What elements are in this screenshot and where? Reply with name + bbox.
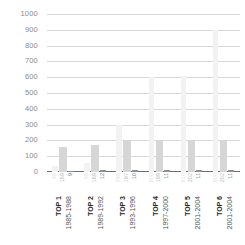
value-label: 295: [116, 173, 122, 182]
value-label: 55: [84, 173, 90, 179]
value-label: 159: [60, 173, 66, 182]
bar-series-1: [116, 125, 122, 172]
value-label: 610: [181, 173, 187, 182]
y-axis-tick-label: 200: [0, 137, 38, 145]
bar-series-2: [220, 140, 228, 172]
bar-group: [111, 14, 143, 172]
bar-group: [79, 14, 111, 172]
category-label-group: TOP 31993-1996: [111, 196, 143, 245]
bar-series-2: [59, 147, 67, 172]
value-labels-row: 3615995516912295197106001991161020211900…: [47, 173, 240, 195]
y-axis-tick-label: 500: [0, 89, 38, 97]
category-label: TOP 3: [119, 196, 126, 216]
bar-series-2: [91, 145, 99, 172]
bar-series-3: [228, 170, 234, 172]
y-axis-tick-label: 400: [0, 105, 38, 113]
bar-group: [144, 14, 176, 172]
bar-series-1: [213, 30, 219, 172]
bar-series-1: [149, 77, 155, 172]
y-axis-tick-label: 700: [0, 58, 38, 66]
bar-series-3: [100, 170, 106, 172]
value-label: 900: [213, 173, 219, 182]
value-label-group: 5516912: [79, 173, 111, 195]
value-label-group: 361599: [47, 173, 79, 195]
value-label: 202: [188, 173, 194, 182]
value-label: 197: [124, 173, 130, 182]
y-axis-tick-label: 1000: [0, 10, 38, 18]
category-label: TOP 4: [152, 196, 159, 216]
value-label: 9: [68, 173, 74, 176]
value-label: 11: [196, 173, 202, 179]
value-label: 169: [92, 173, 98, 182]
bar-series-3: [164, 170, 170, 172]
category-sublabel: 1989-1992: [97, 196, 104, 229]
bar-group: [47, 14, 79, 172]
category-sublabel: 1993-1996: [129, 196, 136, 229]
y-axis-tick-label: 900: [0, 26, 38, 34]
category-label-group: TOP 21989-1992: [79, 196, 111, 245]
value-label: 12: [100, 173, 106, 179]
chart-container: 10009008007006005004003002001000 3615995…: [0, 0, 245, 245]
category-label-group: TOP 62001-2004: [208, 196, 240, 245]
bar-series-3: [132, 170, 138, 172]
y-axis-tick-label: 300: [0, 121, 38, 129]
value-label-group: 61020211: [176, 173, 208, 195]
category-label-group: TOP 52001-2004: [176, 196, 208, 245]
bar-series-2: [123, 141, 131, 172]
bar-series-3: [196, 170, 202, 172]
bar-series-1: [84, 163, 90, 172]
y-axis-tick-label: 800: [0, 42, 38, 50]
category-label: TOP 1: [55, 196, 62, 216]
category-label: TOP 2: [87, 196, 94, 216]
category-label: TOP 6: [216, 196, 223, 216]
value-label: 600: [149, 173, 155, 182]
category-sublabel: 1985-1988: [65, 196, 72, 229]
plot-area: 10009008007006005004003002001000: [47, 14, 240, 172]
bar-series-1: [52, 166, 58, 172]
category-sublabel: 2001-2004: [226, 196, 233, 229]
value-label: 10: [132, 173, 138, 179]
category-label-group: TOP 41997-2000: [144, 196, 176, 245]
value-label: 11: [228, 173, 234, 179]
value-label: 199: [156, 173, 162, 182]
y-axis-tick-label: 100: [0, 152, 38, 160]
category-label: TOP 5: [184, 196, 191, 216]
category-labels-row: TOP 11985-1988TOP 21989-1992TOP 31993-19…: [47, 196, 240, 245]
y-axis-tick-label: 0: [0, 168, 38, 176]
bar-series-3: [68, 171, 74, 172]
bar-series-2: [188, 140, 196, 172]
category-sublabel: 1997-2000: [162, 196, 169, 229]
value-label-group: 29519710: [111, 173, 143, 195]
bar-group: [208, 14, 240, 172]
value-label-group: 90020211: [208, 173, 240, 195]
bar-group: [176, 14, 208, 172]
value-label: 11: [164, 173, 170, 179]
category-sublabel: 2001-2004: [194, 196, 201, 229]
bar-series-2: [156, 141, 164, 172]
value-label: 36: [52, 173, 58, 179]
category-label-group: TOP 11985-1988: [47, 196, 79, 245]
y-axis-tick-label: 600: [0, 73, 38, 81]
bar-series-1: [181, 76, 187, 172]
value-label: 202: [220, 173, 226, 182]
value-label-group: 60019911: [144, 173, 176, 195]
